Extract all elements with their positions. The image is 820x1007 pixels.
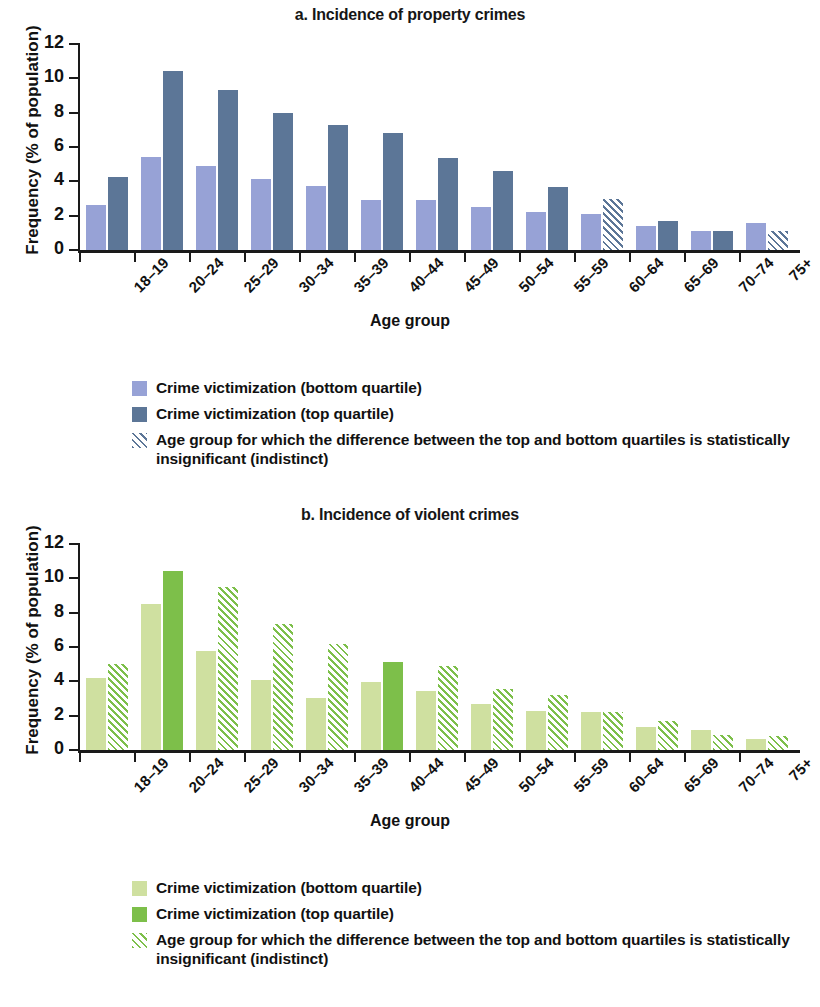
legend-item: Age group for which the difference betwe… — [132, 930, 812, 968]
y-tick-label: 8 — [54, 101, 64, 122]
figure-page: a. Incidence of property crimes Frequenc… — [0, 0, 820, 1007]
y-tick: 6 — [69, 146, 78, 148]
y-tick-label: 0 — [54, 238, 64, 259]
x-tick-label: 35–39 — [350, 754, 392, 796]
bar — [328, 644, 348, 750]
x-tick-label: 60–64 — [625, 754, 667, 796]
bar-group — [689, 544, 744, 750]
bar — [361, 682, 381, 750]
bar — [306, 186, 326, 250]
legend-label: Age group for which the difference betwe… — [156, 430, 812, 468]
bar-group — [524, 44, 579, 250]
bar — [251, 179, 271, 250]
bar — [108, 664, 128, 750]
bar — [713, 735, 733, 750]
bar — [768, 736, 788, 750]
x-tick-label: 70–74 — [735, 254, 777, 296]
y-tick: 2 — [69, 215, 78, 217]
bar-group — [249, 44, 304, 250]
y-tick-label: 12 — [44, 532, 64, 553]
y-tick: 4 — [69, 180, 78, 182]
legend-label: Crime victimization (bottom quartile) — [156, 378, 422, 397]
bar-group — [689, 44, 744, 250]
y-tick: 8 — [69, 112, 78, 114]
bar — [163, 71, 183, 250]
legend-swatch-hatched-green-icon — [132, 933, 147, 948]
panel-b-y-axis-title: Frequency (% of population) — [23, 515, 43, 765]
bar-group — [524, 544, 579, 750]
x-tick-label: 65–69 — [680, 254, 722, 296]
bar-group — [139, 544, 194, 750]
bar — [251, 680, 271, 750]
bar-group — [359, 544, 414, 750]
bar — [273, 624, 293, 750]
bar — [361, 200, 381, 250]
bar — [383, 133, 403, 250]
panel-a-legend: Crime victimization (bottom quartile)Cri… — [132, 378, 812, 475]
y-tick: 10 — [69, 77, 78, 79]
bar-group — [579, 544, 634, 750]
bar — [416, 691, 436, 750]
bar-group — [744, 44, 799, 250]
bar — [713, 231, 733, 250]
x-tick-label: 50–54 — [515, 254, 557, 296]
bar — [141, 157, 161, 250]
bar — [416, 200, 436, 250]
y-tick-label: 6 — [54, 635, 64, 656]
x-tick-label: 55–59 — [570, 254, 612, 296]
legend-item: Age group for which the difference betwe… — [132, 430, 812, 468]
bar-group — [634, 544, 689, 750]
bar — [526, 711, 546, 750]
x-tick-label: 25–29 — [240, 254, 282, 296]
panel-b-legend: Crime victimization (bottom quartile)Cri… — [132, 878, 812, 975]
x-tick-label: 40–44 — [405, 254, 447, 296]
x-tick-label: 45–49 — [460, 754, 502, 796]
legend-swatch-solid-dark-blue-icon — [132, 407, 147, 422]
legend-item: Crime victimization (bottom quartile) — [132, 378, 812, 397]
bar — [526, 212, 546, 250]
bar — [603, 712, 623, 750]
x-tick-label: 70–74 — [735, 754, 777, 796]
y-tick-label: 10 — [44, 566, 64, 587]
x-tick-label: 75+ — [785, 754, 815, 784]
y-tick-label: 0 — [54, 738, 64, 759]
bar — [438, 666, 458, 750]
panel-a-x-axis-line — [78, 250, 800, 253]
y-tick: 2 — [69, 715, 78, 717]
bar — [218, 587, 238, 750]
bar — [691, 730, 711, 750]
x-tick-label: 18–19 — [130, 754, 172, 796]
bar — [438, 158, 458, 250]
bar-group — [84, 44, 139, 250]
panel-b-x-axis-title: Age group — [0, 812, 820, 830]
panel-a-y-axis-line — [78, 43, 80, 251]
legend-label: Crime victimization (bottom quartile) — [156, 878, 422, 897]
y-tick-label: 10 — [44, 66, 64, 87]
x-tick-label: 40–44 — [405, 754, 447, 796]
x-tick-label: 20–24 — [185, 254, 227, 296]
bar-group — [469, 544, 524, 750]
y-tick: 12 — [69, 43, 78, 45]
bar-group — [249, 544, 304, 750]
y-tick: 4 — [69, 680, 78, 682]
bar — [196, 651, 216, 750]
bar — [306, 698, 326, 750]
bar-group — [359, 44, 414, 250]
x-tick-label: 45–49 — [460, 254, 502, 296]
panel-b-plot-area: Frequency (% of population) 024681012 18… — [0, 526, 820, 826]
bar-group — [634, 44, 689, 250]
bar — [383, 662, 403, 750]
y-tick: 12 — [69, 543, 78, 545]
bar — [86, 678, 106, 750]
legend-swatch-hatched-dark-blue-icon — [132, 433, 147, 448]
bar — [141, 604, 161, 750]
bar — [636, 226, 656, 250]
x-tick-label: 20–24 — [185, 754, 227, 796]
y-tick-label: 6 — [54, 135, 64, 156]
bar — [658, 721, 678, 750]
bar — [471, 704, 491, 750]
legend-swatch-solid-light-blue-icon — [132, 381, 147, 396]
bar — [603, 199, 623, 251]
bar — [86, 205, 106, 250]
panel-b-x-axis-line — [78, 750, 800, 753]
